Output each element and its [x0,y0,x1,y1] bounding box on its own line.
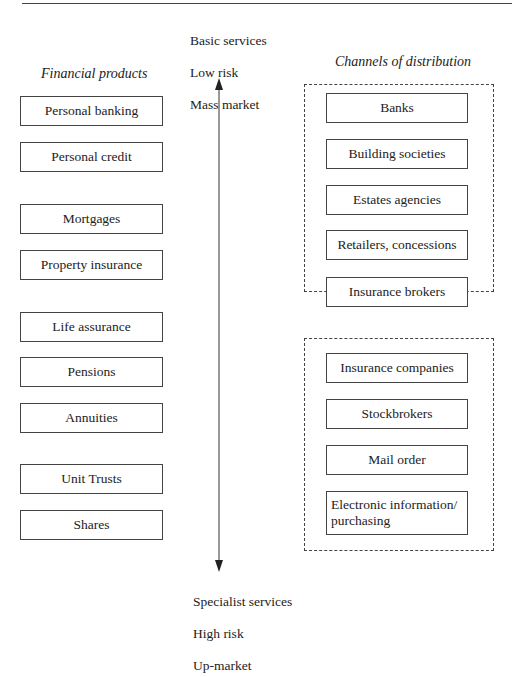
financial-products-heading: Financial products [41,66,147,82]
channel-electronic-line-2: purchasing [331,513,457,529]
axis-bottom-label-2: High risk [193,626,292,642]
product-mortgages: Mortgages [20,204,163,234]
channel-electronic-information: Electronic information/ purchasing [326,491,468,535]
channel-insurance-companies: Insurance companies [326,353,468,383]
channel-retailers-concessions: Retailers, concessions [326,230,468,260]
product-personal-banking: Personal banking [20,96,163,126]
top-rule [22,3,512,4]
axis-top-label-1: Basic services [190,33,267,49]
channel-electronic-line-1: Electronic information/ [331,497,457,513]
channel-building-societies: Building societies [326,139,468,169]
product-unit-trusts: Unit Trusts [20,464,163,494]
channel-banks: Banks [326,93,468,123]
channel-stockbrokers: Stockbrokers [326,399,468,429]
axis-bottom-labels: Specialist services High risk Up-market [193,578,292,677]
channel-mail-order: Mail order [326,445,468,475]
product-shares: Shares [20,510,163,540]
axis-bottom-label-3: Up-market [193,658,292,674]
double-arrow-icon [210,78,230,572]
channel-insurance-brokers: Insurance brokers [326,277,468,307]
product-life-assurance: Life assurance [20,312,163,342]
product-pensions: Pensions [20,357,163,387]
product-annuities: Annuities [20,403,163,433]
axis-bottom-label-1: Specialist services [193,594,292,610]
channel-estates-agencies: Estates agencies [326,185,468,215]
product-personal-credit: Personal credit [20,142,163,172]
product-property-insurance: Property insurance [20,250,163,280]
channels-heading: Channels of distribution [335,54,471,70]
